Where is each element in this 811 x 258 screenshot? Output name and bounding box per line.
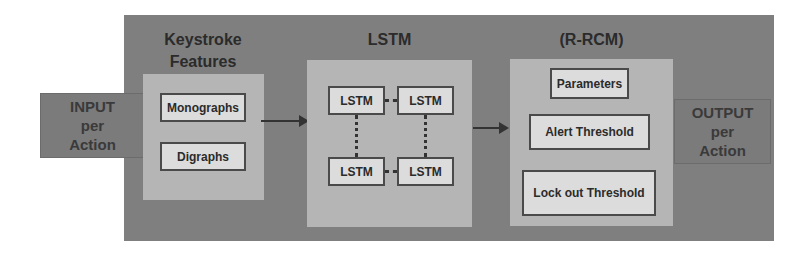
arrow-head-icon	[499, 122, 509, 134]
keystroke-title-line1: Keystroke	[143, 29, 263, 51]
lstm-link-left	[355, 115, 358, 157]
output-label-line3: Action	[699, 141, 746, 160]
lstm-cell-label: LSTM	[340, 165, 373, 179]
lstm-title: LSTM	[307, 29, 472, 51]
parameters-label: Parameters	[557, 77, 622, 91]
lstm-link-top	[385, 99, 397, 102]
alert-threshold-box: Alert Threshold	[529, 114, 650, 150]
input-label-line1: INPUT	[70, 97, 115, 116]
arrow-lstm-to-rrcm	[473, 127, 501, 129]
lstm-cell-2: LSTM	[397, 86, 454, 115]
rrcm-title: (R-RCM)	[510, 29, 673, 51]
lstm-cell-1: LSTM	[328, 86, 385, 115]
lockout-threshold-label: Lock out Threshold	[533, 186, 644, 200]
lstm-cell-label: LSTM	[409, 94, 442, 108]
monographs-label: Monographs	[167, 101, 239, 115]
input-label-line2: per	[81, 116, 104, 135]
alert-threshold-label: Alert Threshold	[545, 125, 634, 139]
input-label-line3: Action	[69, 135, 116, 154]
monographs-box: Monographs	[160, 93, 246, 122]
lstm-cell-label: LSTM	[340, 94, 373, 108]
keystroke-title-line2: Features	[143, 51, 263, 73]
input-block: INPUT per Action	[40, 93, 145, 158]
lockout-threshold-box: Lock out Threshold	[522, 170, 656, 216]
lstm-link-right	[424, 115, 427, 157]
keystroke-features-title: Keystroke Features	[143, 29, 263, 73]
digraphs-box: Digraphs	[160, 142, 246, 171]
lstm-link-bottom	[385, 170, 397, 173]
output-label-line2: per	[711, 122, 734, 141]
digraphs-label: Digraphs	[177, 150, 229, 164]
output-label-line1: OUTPUT	[692, 103, 754, 122]
output-block: OUTPUT per Action	[674, 99, 771, 164]
lstm-cell-4: LSTM	[397, 157, 454, 186]
arrow-keystroke-to-lstm	[261, 120, 301, 122]
lstm-cell-3: LSTM	[328, 157, 385, 186]
parameters-box: Parameters	[550, 68, 629, 99]
lstm-cell-label: LSTM	[409, 165, 442, 179]
